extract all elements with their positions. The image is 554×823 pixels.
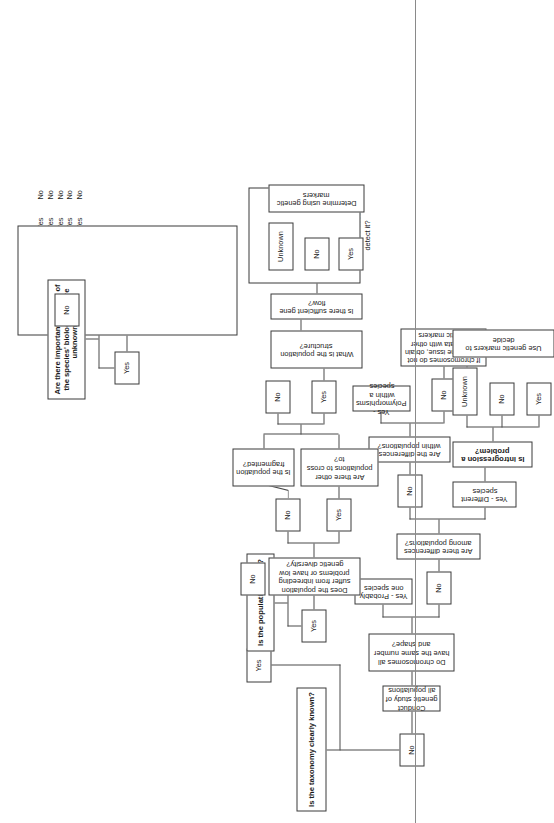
no-cell: No	[64, 175, 74, 199]
node-introgression-yes: Yes	[526, 382, 551, 415]
node-aspects-no: No	[54, 293, 79, 326]
edge-otherpops-out	[338, 434, 339, 448]
edge-taxonomy-split	[339, 664, 340, 750]
edge-intro-unknown	[466, 415, 467, 427]
node-differences-among-populations: Are there differences among populations?	[396, 533, 480, 559]
node-aspects-yes: Yes	[114, 351, 139, 384]
node-fragmented-yes: Yes	[311, 380, 336, 413]
node-inbreeding-no: No	[275, 498, 300, 531]
edge-fragyes-to-structure	[323, 368, 324, 380]
node-differences-within-populations: Are the differences within populations?	[368, 436, 450, 462]
node-inbreeding-yes: Yes	[326, 498, 351, 531]
node-polymorphisms-within-species: Yes - Polymorphisms within a species	[352, 385, 410, 411]
node-diffamong-no: No	[397, 474, 422, 507]
edge-diffamong-split	[409, 518, 485, 519]
edge-no-to-chromfail	[443, 366, 444, 378]
edge-chrom-no	[438, 604, 439, 617]
edge-diffamong-yes	[484, 507, 485, 519]
node-probably-one-species: Yes - Probably one species	[354, 578, 412, 604]
node-geneflow-no: No	[304, 237, 329, 270]
edge-fragmented-out	[263, 434, 264, 448]
edge-diffamong-no	[409, 507, 410, 519]
node-introgression-no: No	[489, 382, 514, 415]
node-use-genetic-markers: Use genetic markers to decide	[452, 329, 554, 357]
edge-popsmall-stem	[274, 602, 287, 603]
edge-inbreeding-no	[287, 531, 288, 543]
edge-introgression-out	[492, 427, 493, 441]
edge-merge-out	[300, 424, 301, 434]
edge-diffamong-out	[438, 519, 439, 533]
node-determine-using-markers: Determine using genetic markers	[268, 184, 364, 212]
edge-no-to-diffwithin	[409, 462, 410, 474]
edge-yes-to-inbreeding	[313, 595, 314, 609]
edge-aspects-stem	[85, 338, 98, 339]
node-different-species: Yes - Different species	[452, 481, 516, 507]
edge-inbreeding-out	[313, 543, 314, 557]
edge-chromosomes-split	[382, 616, 439, 617]
edge-diffwithin-no	[443, 411, 444, 423]
edge-merge-split	[277, 423, 323, 424]
node-inbreeding: Does the population suffer from inbreedi…	[268, 557, 360, 595]
node-fragmented-no: No	[265, 380, 290, 413]
node-geneflow-unknown: Unknown	[268, 222, 293, 270]
no-cell: No	[55, 175, 65, 199]
edge-intro-yes	[538, 415, 539, 427]
no-cell: No	[35, 175, 45, 199]
edge-intro-no	[501, 415, 502, 427]
node-chromosomes: Do chromosomes all have the same number …	[368, 633, 454, 671]
no-cell: No	[74, 175, 84, 199]
node-chromosomes-no: No	[426, 571, 451, 604]
edge-popsmall-yes	[287, 625, 301, 626]
edge-structure-to-geneflow	[300, 319, 301, 330]
edge-taxonomy-no	[339, 749, 399, 750]
node-introgression: Is introgression a problem?	[452, 441, 532, 467]
node-other-populations-cross: Are there other populations to cross to?	[300, 448, 378, 486]
yes-cell: Yes	[64, 199, 74, 229]
node-taxonomy: Is the taxonomy clearly known?	[296, 687, 326, 811]
node-popsmall-no: No	[240, 562, 265, 595]
node-geneflow-yes: Yes	[338, 237, 363, 270]
edge-diffwithin-split	[380, 422, 443, 423]
node-gene-flow: Is there sufficient gene flow?	[270, 293, 362, 319]
edge-yes-to-otherpops	[338, 486, 339, 498]
node-conduct-study: Conduct genetic study of all populations	[382, 685, 440, 711]
yes-cell: Yes	[35, 199, 45, 229]
edge-no-to-conduct	[411, 711, 412, 733]
yes-cell: Yes	[74, 199, 84, 229]
node-introgression-unknown: Unknown	[452, 367, 477, 415]
edge-inbreeding-split	[287, 542, 338, 543]
node-taxonomy-yes: Yes	[246, 648, 271, 682]
node-popsmall-yes: Yes	[301, 609, 326, 642]
no-cell: No	[45, 175, 55, 199]
yes-cell: Yes	[55, 199, 65, 229]
yes-cell: Yes	[45, 199, 55, 229]
edge-chrom-yes	[382, 604, 383, 617]
edge-inbreeding-yes	[338, 531, 339, 543]
edge-conduct-to-chromosomes	[411, 671, 412, 685]
edge-aspects-yes	[98, 367, 114, 368]
edge-aspectsyes-to-panel	[126, 335, 127, 351]
edge-taxonomy-stem	[326, 749, 339, 750]
edge-frag-no	[277, 413, 278, 424]
edge-diffspecies-out	[484, 467, 485, 481]
node-taxonomy-no: No	[399, 733, 424, 766]
node-population-fragmented: Is the population fragmented?	[232, 448, 294, 486]
edge-chromosomes-out	[411, 617, 412, 633]
edge-diffwithin-out	[409, 423, 410, 436]
node-population-structure: What is the population structure?	[270, 330, 362, 368]
page-rule-divider	[415, 0, 416, 823]
edge-frag-yes	[323, 413, 324, 424]
edge-chromno-to-diffamong	[438, 559, 439, 571]
edge-taxonomy-yes	[270, 664, 340, 665]
